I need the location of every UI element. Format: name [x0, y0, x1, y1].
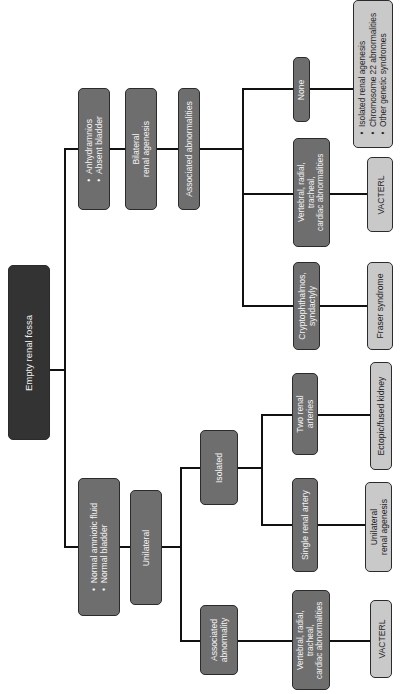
connector — [64, 148, 66, 548]
bullet-item: Chromosome 22 abnormalities — [368, 13, 379, 135]
node-label: tracheal, — [306, 601, 316, 678]
bullet-item: Normal bladder — [99, 503, 109, 591]
node-label: Cryptophthalmos, — [297, 272, 307, 339]
node-label: Fraser syndrome — [375, 274, 385, 339]
connector — [318, 524, 365, 526]
node-label: arteries — [305, 395, 315, 432]
connector — [162, 546, 181, 548]
bullet-item: Absent bladder — [94, 116, 104, 182]
node-two-renal-arteries: Two renal arteries — [292, 373, 318, 455]
node-vacterl-bilateral: VACTERL — [367, 157, 393, 232]
node-vacterl-unilateral: VACTERL — [370, 600, 392, 678]
connector — [242, 305, 293, 307]
node-label: None — [297, 79, 307, 100]
node-label: Empty renal fossa — [24, 314, 34, 390]
node-label: Associated — [209, 618, 219, 662]
connector — [180, 467, 182, 642]
connector — [261, 414, 292, 416]
connector — [330, 640, 370, 642]
bullet-item: Anhydramnios — [84, 116, 94, 182]
node-label: renal agenesis — [141, 121, 151, 177]
node-label: VACTERL — [375, 175, 385, 214]
connector — [320, 305, 367, 307]
node-unilateral-findings: Normal amniotic fluid Normal bladder — [78, 478, 120, 616]
node-label: Associated abnormalities — [184, 101, 194, 197]
node-label: VACTERL — [376, 620, 386, 659]
node-label: cardiac abnormalities — [316, 601, 326, 678]
node-isolated: Isolated — [200, 430, 238, 505]
connector — [180, 640, 200, 642]
connector — [238, 467, 262, 469]
node-label: Unilateral — [369, 499, 379, 555]
node-cryptophthalmos: Cryptophthalmos, syndactyly — [293, 262, 320, 350]
connector — [242, 193, 293, 195]
connector — [238, 640, 292, 642]
node-label: abnormality — [219, 618, 229, 662]
connector — [261, 414, 263, 525]
bullet-item: Isolated renal agenesis — [357, 13, 368, 135]
node-unilateral: Unilateral — [130, 490, 162, 605]
connector — [64, 148, 78, 150]
node-label: renal agenesis — [379, 499, 389, 555]
bullet-item: Other genetic syndromes — [378, 13, 389, 135]
node-label: Bilateral — [131, 121, 141, 177]
node-label: syndactyly — [307, 272, 317, 339]
node-associated-abnormalities: Associated abnormalities — [178, 88, 200, 210]
connector — [120, 546, 130, 548]
node-label: Two renal — [295, 395, 305, 432]
connector — [261, 524, 292, 526]
node-root: Empty renal fossa — [8, 265, 50, 440]
node-bilateral-findings: Anhydramnios Absent bladder — [78, 88, 110, 210]
connector — [64, 546, 78, 548]
node-label: tracheal, — [307, 154, 317, 231]
node-single-renal-artery: Single renal artery — [292, 478, 318, 572]
connector — [318, 414, 370, 416]
node-associated-abnormality: Associated abnormality — [200, 605, 238, 675]
connector — [200, 148, 243, 150]
node-bilateral-renal-agenesis: Bilateral renal agenesis — [125, 88, 157, 210]
node-label: Unilateral — [141, 529, 151, 565]
node-label: Vertebral, radial, — [297, 154, 307, 231]
bullet-item: Normal amniotic fluid — [89, 503, 99, 591]
node-label: Ectopic/fused kidney — [376, 377, 386, 456]
node-none: None — [293, 57, 310, 122]
node-label: Vertebral, radial, — [297, 601, 307, 678]
node-ectopic-fused-kidney: Ectopic/fused kidney — [370, 362, 392, 470]
connector — [157, 148, 178, 150]
node-outcome-list: Isolated renal agenesis Chromosome 22 ab… — [353, 0, 393, 148]
flowchart-canvas: Empty renal fossa Anhydramnios Absent bl… — [0, 0, 405, 694]
connector — [180, 467, 200, 469]
node-bilateral-vertebral-cardiac: Vertebral, radial, tracheal, cardiac abn… — [293, 138, 330, 247]
node-unilateral-renal-agenesis: Unilateral renal agenesis — [365, 482, 392, 572]
node-unilateral-vertebral-cardiac: Vertebral, radial, tracheal, cardiac abn… — [292, 590, 330, 690]
connector — [330, 193, 367, 195]
node-label: Single renal artery — [300, 490, 310, 560]
node-label: cardiac abnormalities — [316, 154, 326, 231]
node-fraser-syndrome: Fraser syndrome — [367, 262, 393, 350]
connector — [242, 88, 293, 90]
connector — [310, 88, 353, 90]
connector — [242, 88, 244, 306]
node-label: Isolated — [214, 452, 224, 482]
connector — [110, 148, 125, 150]
